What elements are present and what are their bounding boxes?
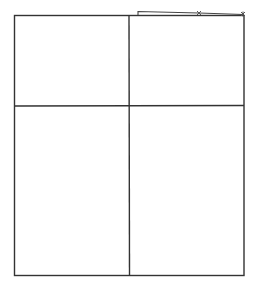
annotation-stroke xyxy=(138,12,243,16)
cell-bottom-right xyxy=(130,107,243,275)
cell-top-left xyxy=(15,16,129,106)
cell-top-right xyxy=(130,16,243,106)
cell-bottom-left xyxy=(15,107,129,275)
